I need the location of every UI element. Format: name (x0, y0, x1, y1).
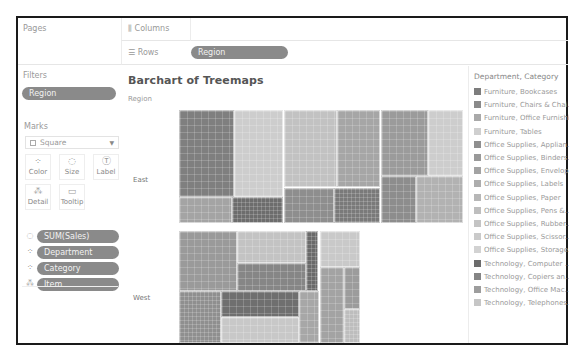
tile-furniture-tables[interactable] (221, 317, 299, 343)
tile-technology-office-machines[interactable] (381, 110, 428, 176)
legend-swatch (474, 167, 481, 174)
legend-item-label: Office Supplies, Storage... (484, 246, 569, 254)
marks-field-category[interactable]: ⁘ Category (25, 262, 121, 275)
detail-button[interactable]: ⁂ Detail (25, 184, 51, 210)
legend-item[interactable]: Technology, Office Mac... (474, 286, 569, 296)
legend-item[interactable]: Office Supplies, Binders... (474, 154, 569, 164)
legend-item[interactable]: Office Supplies, Storage... (474, 246, 569, 256)
tile-technology-computer[interactable] (306, 231, 318, 291)
legend-item-label: Technology, Telephones... (484, 299, 569, 307)
legend-item[interactable]: Office Supplies, Rubber... (474, 220, 569, 230)
legend-item[interactable]: Furniture, Tables (474, 128, 569, 138)
tile-technology-office-machines[interactable] (320, 267, 344, 343)
treemap-east[interactable] (179, 110, 463, 223)
legend-item[interactable]: Technology, Computer ... (474, 260, 569, 270)
square-mark-icon (30, 140, 36, 146)
legend-swatch (474, 180, 481, 187)
legend-item-label: Office Supplies, Applian... (484, 141, 569, 149)
legend-swatch (474, 194, 481, 201)
marks-field-department[interactable]: ⁘ Department (25, 246, 121, 259)
tile-furniture-chairs[interactable] (179, 231, 237, 291)
legend-item-label: Office Supplies, Scissor... (484, 233, 569, 241)
tile-office-supplies-paper[interactable] (334, 188, 380, 223)
row-label-west[interactable]: West (133, 294, 150, 302)
tooltip-button[interactable]: ▭ Tooltip (59, 184, 85, 210)
legend-swatch (474, 233, 481, 240)
pages-shelf[interactable]: Pages (18, 18, 121, 65)
treemap-west[interactable] (179, 231, 360, 343)
legend-item[interactable]: Technology, Telephones... (474, 299, 569, 309)
legend-swatch (474, 128, 481, 135)
legend-item[interactable]: Office Supplies, Labels (474, 180, 569, 190)
tile-furniture-bookcases[interactable] (179, 291, 221, 343)
color-button-label: Color (29, 168, 47, 176)
legend-item-label: Furniture, Bookcases (484, 88, 557, 96)
legend-swatch (474, 141, 481, 148)
row-header-region: Region (128, 95, 152, 103)
legend-swatch (474, 101, 481, 108)
rows-pill-region[interactable]: Region (191, 46, 288, 59)
filters-label: Filters (23, 71, 47, 80)
size-button[interactable]: ◌ Size (59, 154, 85, 180)
tile-office-supplies-storage[interactable] (284, 110, 337, 187)
tile-technology-copiers[interactable] (221, 291, 299, 317)
legend-item[interactable]: Furniture, Bookcases (474, 88, 569, 98)
tile-technology-computer[interactable] (232, 197, 283, 223)
tooltip-button-label: Tooltip (61, 198, 84, 206)
legend-title: Department, Category (474, 72, 558, 81)
legend-item-label: Furniture, Tables (484, 128, 542, 136)
legend-item-label: Technology, Copiers an... (484, 273, 569, 281)
legend-item-label: Technology, Office Mac... (484, 286, 569, 294)
field-pill[interactable]: Category (37, 262, 119, 275)
rows-label-text: Rows (138, 48, 159, 57)
mark-type-dropdown[interactable]: Square ▼ (25, 136, 119, 149)
tile-technology-other[interactable] (416, 176, 463, 223)
legend-item[interactable]: Furniture, Chairs & Chai... (474, 101, 569, 111)
columns-shelf[interactable]: ⫼ Columns (121, 18, 568, 41)
row-label-east[interactable]: East (133, 176, 148, 184)
legend-item[interactable]: Office Supplies, Pens &... (474, 207, 569, 217)
tile-office-supplies-appliances[interactable] (284, 188, 334, 223)
legend-swatch (474, 207, 481, 214)
legend-item[interactable]: Office Supplies, Applian... (474, 141, 569, 151)
legend-item[interactable]: Technology, Copiers an... (474, 273, 569, 283)
legend-item-label: Office Supplies, Labels (484, 180, 563, 188)
field-pill[interactable]: SUM(Sales) (37, 230, 119, 243)
tile-technology-telephones[interactable] (428, 110, 463, 176)
legend-swatch (474, 286, 481, 293)
tile-office-supplies-binders[interactable] (337, 110, 380, 187)
tile-technology-copiers[interactable] (381, 176, 416, 223)
tile-furniture-tables[interactable] (234, 110, 283, 197)
left-panel-empty-area (22, 286, 118, 341)
color-legend: Department, Category Furniture, Bookcase… (468, 66, 568, 343)
tile-furniture-office-furnishings[interactable] (179, 197, 232, 223)
label-icon: Ⓣ (94, 155, 118, 168)
tile-technology-telephones[interactable] (320, 231, 360, 267)
label-button-label: Label (97, 168, 116, 176)
legend-item[interactable]: Office Supplies, Envelop... (474, 167, 569, 177)
tile-office-supplies-labels[interactable] (344, 309, 360, 343)
detail-button-label: Detail (28, 198, 49, 206)
tile-office-supplies-envelopes[interactable] (344, 267, 360, 309)
filter-pill-region[interactable]: Region (22, 87, 116, 100)
legend-item[interactable]: Furniture, Office Furnishi... (474, 114, 569, 124)
tile-office-supplies-storage[interactable] (237, 231, 306, 263)
tile-furniture-bookcases[interactable] (179, 110, 234, 197)
tile-office-supplies-appliances[interactable] (237, 263, 306, 291)
size-icon: ◌ (25, 231, 35, 240)
rows-shelf[interactable]: ☰ Rows Region (121, 41, 568, 65)
label-button[interactable]: Ⓣ Label (93, 154, 119, 180)
marks-label: Marks (24, 122, 48, 131)
filters-shelf[interactable]: Filters Region (18, 65, 121, 120)
legend-swatch (474, 88, 481, 95)
field-pill[interactable]: Department (37, 246, 119, 259)
color-icon: ⁘ (25, 263, 35, 272)
marks-field-sum-sales[interactable]: ◌ SUM(Sales) (25, 230, 121, 243)
legend-item-label: Furniture, Office Furnishi... (484, 114, 569, 122)
size-button-label: Size (65, 168, 79, 176)
tile-office-supplies-binders[interactable] (299, 291, 319, 343)
color-button[interactable]: ⁘ Color (25, 154, 51, 180)
legend-item-label: Technology, Computer ... (484, 260, 569, 268)
legend-item[interactable]: Office Supplies, Paper (474, 194, 569, 204)
legend-item[interactable]: Office Supplies, Scissor... (474, 233, 569, 243)
